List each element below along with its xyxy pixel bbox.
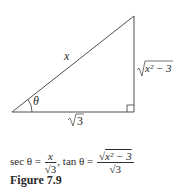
sec-numerator: x	[45, 150, 57, 163]
right-angle-marker	[127, 105, 134, 112]
separator: ,	[57, 155, 60, 167]
sec-lhs: sec θ =	[10, 155, 41, 167]
formula-line: sec θ = x √3 , tan θ = √x² − 3 √3	[10, 150, 135, 175]
hypotenuse-label: x	[64, 50, 69, 62]
tan-denominator: 3	[116, 163, 122, 175]
angle-theta-label: θ	[33, 95, 39, 107]
triangle-figure	[0, 0, 176, 150]
tan-numerator: x² − 3	[105, 150, 132, 162]
right-triangle	[12, 16, 134, 112]
angle-arc	[28, 100, 32, 113]
figure-caption: Figure 7.9	[10, 173, 62, 188]
adjacent-side-label: 3	[77, 115, 83, 127]
opposite-side-label: x² − 3	[145, 63, 172, 74]
tan-lhs: tan θ =	[63, 155, 93, 167]
